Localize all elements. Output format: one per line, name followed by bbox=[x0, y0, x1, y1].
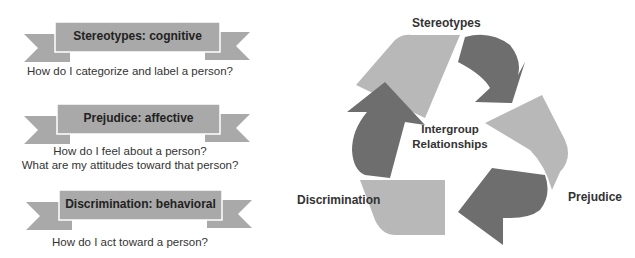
ribbon-prejudice: Prejudice: affective bbox=[0, 94, 260, 144]
caption-line: What are my attitudes toward that person… bbox=[0, 158, 260, 172]
center-label-line: Intergroup bbox=[390, 122, 510, 137]
cycle-diagram: Stereotypes Prejudice Discrimination Int… bbox=[290, 0, 635, 258]
node-label-stereotypes: Stereotypes bbox=[412, 16, 481, 30]
band-bottom-left bbox=[360, 180, 445, 235]
concept-list-panel: Stereotypes: cognitive How do I categori… bbox=[0, 0, 270, 258]
node-label-prejudice: Prejudice bbox=[568, 190, 622, 204]
caption-discrimination: How do I act toward a person? bbox=[0, 235, 260, 249]
ribbon-title: Stereotypes: cognitive bbox=[55, 25, 220, 47]
caption-line: How do I feel about a person? bbox=[0, 144, 260, 158]
node-label-discrimination: Discrimination bbox=[297, 193, 380, 207]
arrow-top-right bbox=[458, 35, 525, 103]
ribbon-title: Discrimination: behavioral bbox=[59, 193, 222, 215]
ribbon-title: Prejudice: affective bbox=[57, 107, 220, 129]
caption-stereotypes: How do I categorize and label a person? bbox=[0, 64, 260, 78]
arrow-bottom-right bbox=[458, 168, 548, 245]
caption-line: How do I categorize and label a person? bbox=[0, 64, 260, 78]
center-label-line: Relationships bbox=[390, 137, 510, 152]
caption-prejudice: How do I feel about a person? What are m… bbox=[0, 144, 260, 172]
ribbon-discrimination: Discrimination: behavioral bbox=[0, 180, 260, 230]
caption-line: How do I act toward a person? bbox=[0, 235, 260, 249]
center-label: Intergroup Relationships bbox=[390, 122, 510, 152]
ribbon-stereotypes: Stereotypes: cognitive bbox=[0, 12, 260, 62]
